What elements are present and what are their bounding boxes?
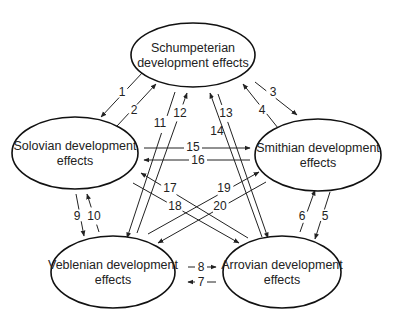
- arrow-icon: [137, 84, 156, 105]
- arrow-shaft: [255, 82, 266, 91]
- edge-label: 10: [87, 209, 101, 223]
- arrow-icon: [276, 98, 297, 115]
- edge-label: 15: [186, 140, 200, 154]
- node-label: Smithian development: [256, 141, 380, 155]
- node-label: Solovian development: [14, 139, 138, 153]
- edge-label: 9: [74, 209, 81, 223]
- edge-label: 8: [198, 260, 205, 274]
- development-effects-diagram: 1234567891011121314151617181920 Schumpet…: [0, 0, 394, 319]
- node-schumpeterian: Schumpeteriandevelopment effects: [131, 23, 255, 87]
- edge-label: 2: [131, 103, 138, 117]
- edge-label: 6: [299, 209, 306, 223]
- edge-arrow-15: 15: [144, 140, 250, 154]
- arrow-icon: [158, 212, 213, 243]
- node-label: effects: [264, 273, 301, 287]
- edge-label: 12: [173, 106, 187, 120]
- edge-label: 7: [198, 275, 205, 289]
- edge-label: 1: [119, 85, 126, 99]
- edge-arrow-6: 6: [299, 190, 315, 232]
- arrow-shaft: [97, 225, 99, 232]
- edge-arrow-8: 8: [188, 260, 216, 274]
- node-label: Schumpeterian: [151, 41, 235, 55]
- edge-label: 13: [219, 106, 233, 120]
- node-smithian: Smithian developmenteffects: [255, 119, 381, 191]
- arrow-shaft: [148, 195, 218, 234]
- arrow-shaft: [76, 194, 79, 210]
- edge-label: 16: [191, 153, 205, 167]
- edge-label: 18: [168, 199, 182, 213]
- node-arrovian: Arrovian developmenteffects: [221, 236, 343, 308]
- edge-label: 17: [163, 181, 177, 195]
- edge-arrow-16: 16: [144, 153, 250, 167]
- edge-label: 5: [322, 209, 329, 223]
- arrow-icon: [243, 84, 259, 104]
- edge-label: 19: [217, 181, 231, 195]
- edge-arrow-5: 5: [315, 192, 330, 239]
- edge-label: 20: [213, 199, 227, 213]
- edge-arrow-17: 17: [141, 173, 248, 238]
- arrow-icon: [81, 221, 84, 236]
- arrow-icon: [101, 98, 119, 117]
- node-label: development effects: [137, 56, 249, 70]
- edge-arrow-10: 10: [87, 194, 101, 232]
- arrow-shaft: [133, 183, 167, 202]
- node-label: effects: [300, 156, 337, 170]
- arrow-shaft: [267, 114, 278, 128]
- edge-arrow-9: 9: [74, 194, 84, 236]
- arrow-shaft: [324, 192, 330, 210]
- arrow-shaft: [137, 121, 177, 233]
- arrow-icon: [87, 194, 91, 207]
- arrow-icon: [315, 221, 321, 239]
- arrow-shaft: [177, 195, 248, 238]
- node-label: Veblenian development: [48, 258, 178, 272]
- node-solovian: Solovian developmenteffects: [12, 117, 138, 189]
- edge-arrow-14: 14: [210, 93, 262, 237]
- arrow-shaft: [229, 182, 266, 203]
- arrow-icon: [210, 93, 262, 237]
- edge-label: 4: [259, 103, 266, 117]
- node-label: Arrovian development: [221, 258, 343, 272]
- edge-arrow-7: 7: [188, 275, 216, 289]
- edge-label: 14: [210, 124, 224, 138]
- arrow-icon: [307, 190, 315, 212]
- arrow-icon: [183, 93, 187, 104]
- arrow-shaft: [117, 113, 129, 126]
- node-label: effects: [57, 154, 94, 168]
- arrow-shaft: [218, 94, 222, 105]
- edge-label: 3: [270, 85, 277, 99]
- arrow-shaft: [300, 223, 303, 232]
- arrow-shaft: [127, 72, 143, 89]
- edge-label: 11: [154, 116, 167, 130]
- node-label: effects: [95, 273, 132, 287]
- node-veblenian: Veblenian developmenteffects: [48, 236, 178, 308]
